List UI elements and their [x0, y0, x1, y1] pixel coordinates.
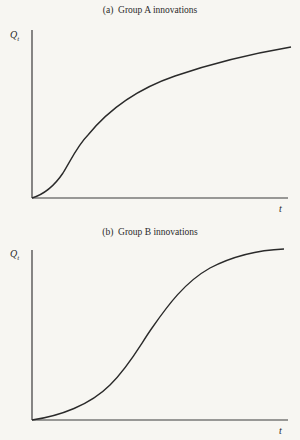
- figure-a: [32, 30, 291, 198]
- figure-b: [32, 249, 288, 420]
- figure-a-curve: [32, 47, 291, 198]
- figure-b-curve: [32, 249, 284, 420]
- charts-canvas: [0, 0, 300, 440]
